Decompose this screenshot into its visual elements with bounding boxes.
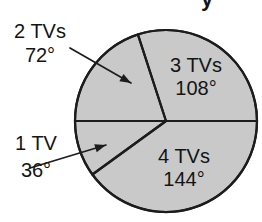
slice-label-name-2-tvs: 2 TVs: [14, 20, 66, 42]
slice-label-value-3-tvs: 108°: [175, 77, 216, 99]
pie-chart: y 3 TVs108°2 TVs72°1 TV36°4 TVs144°: [0, 0, 262, 222]
chart-title-fragment: y: [201, 0, 214, 11]
slice-label-name-1-tv: 1 TV: [15, 132, 58, 154]
slice-label-value-2-tvs: 72°: [25, 44, 55, 66]
slice-label-name-4-tvs: 4 TVs: [158, 145, 210, 167]
slice-label-value-1-tv: 36°: [21, 159, 51, 181]
slice-label-name-3-tvs: 3 TVs: [170, 54, 222, 76]
chart-canvas: y 3 TVs108°2 TVs72°1 TV36°4 TVs144°: [0, 0, 262, 222]
slice-label-value-4-tvs: 144°: [163, 168, 204, 190]
